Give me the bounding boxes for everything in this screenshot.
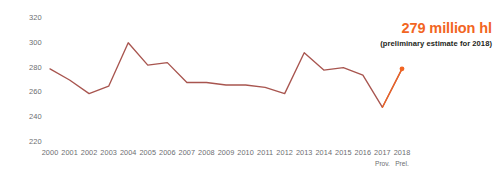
y-axis-tick-label: 220 xyxy=(29,138,42,146)
annotation-headline: 279 million hl xyxy=(302,20,492,37)
data-point-marker xyxy=(400,66,405,71)
y-axis: 320300280260240220 xyxy=(0,0,50,160)
series-accent-segment xyxy=(382,69,402,107)
series-line-path xyxy=(50,43,402,107)
x-axis-tick-sublabel: Prel. xyxy=(385,159,419,168)
y-axis-tick-label: 240 xyxy=(29,113,42,121)
marker-layer xyxy=(382,66,404,107)
annotation-subtext: (preliminary estimate for 2018) xyxy=(302,38,492,49)
y-axis-tick-label: 300 xyxy=(29,39,42,47)
x-axis-tick-label: 2018 xyxy=(385,148,419,157)
y-axis-tick-label: 260 xyxy=(29,88,42,96)
wine-production-line-chart: 320300280260240220 200020012002200320042… xyxy=(0,0,498,177)
x-axis: 2000200120022003200420052006200720082009… xyxy=(0,148,498,177)
callout-annotation: 279 million hl (preliminary estimate for… xyxy=(302,20,492,49)
y-axis-tick-label: 320 xyxy=(29,14,42,22)
y-axis-tick-label: 280 xyxy=(29,64,42,72)
x-axis-tick: 2018Prel. xyxy=(385,148,419,168)
